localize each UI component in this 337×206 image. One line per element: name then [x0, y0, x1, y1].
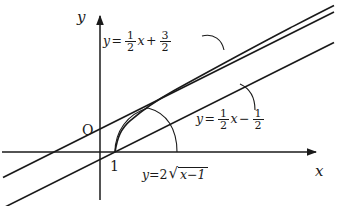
- equation-upper-equals: =: [112, 35, 122, 48]
- x-tick-label-1: 1: [110, 158, 119, 174]
- equation-lower-operator: −: [239, 113, 249, 126]
- equation-lower-variable: x: [231, 113, 238, 126]
- leader-arc-curve-tail: [148, 108, 177, 152]
- equation-curve: y = 2 √ x−1: [142, 167, 208, 183]
- equation-lower-coefficient-numerator: 1: [218, 108, 229, 119]
- equation-upper-coefficient-numerator: 1: [125, 30, 136, 41]
- equation-curve-radical: √ x−1: [169, 167, 208, 183]
- equation-upper-lead: y: [103, 35, 110, 48]
- equation-lower-constant-numerator: 1: [253, 108, 264, 119]
- equation-upper-constant: 3 2: [160, 30, 171, 53]
- equation-lower-equals: =: [205, 113, 215, 126]
- equation-upper-coefficient: 1 2: [125, 30, 136, 53]
- equation-curve-equals: =: [149, 169, 159, 182]
- equation-curve-lead: y: [142, 169, 149, 182]
- math-figure: y x O 1 y = 1 2 x + 3 2 y = 1 2 x − 1 2: [0, 0, 337, 206]
- equation-lower-line: y = 1 2 x − 1 2: [196, 108, 265, 131]
- equation-curve-multiplier: 2: [160, 169, 168, 182]
- equation-upper-constant-numerator: 3: [160, 30, 171, 41]
- equation-upper-constant-denominator: 2: [160, 41, 171, 53]
- equation-upper-operator: +: [146, 35, 156, 48]
- origin-label: O: [82, 122, 93, 138]
- leader-arc-curve: [115, 108, 148, 152]
- equation-upper-coefficient-denominator: 2: [125, 41, 136, 53]
- y-axis-label: y: [77, 8, 85, 26]
- equation-curve-radicand: x−1: [178, 167, 207, 183]
- equation-lower-coefficient: 1 2: [218, 108, 229, 131]
- equation-lower-coefficient-denominator: 2: [218, 119, 229, 131]
- equation-lower-constant: 1 2: [253, 108, 264, 131]
- equation-lower-constant-denominator: 2: [253, 119, 264, 131]
- equation-upper-line: y = 1 2 x + 3 2: [103, 30, 172, 53]
- equation-lower-lead: y: [196, 113, 203, 126]
- equation-upper-variable: x: [138, 35, 145, 48]
- x-axis-label: x: [315, 162, 323, 180]
- radical-sign-icon: √: [169, 166, 179, 182]
- leader-arc-upper: [202, 35, 224, 50]
